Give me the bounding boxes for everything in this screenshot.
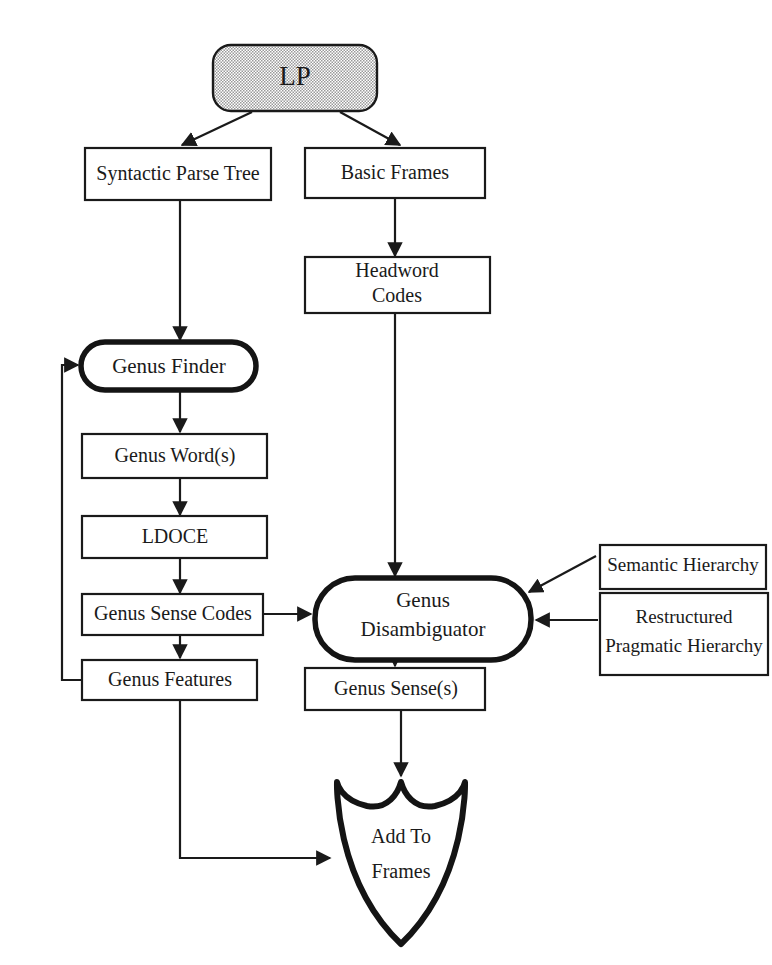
- basic-frames-label: Basic Frames: [341, 161, 450, 183]
- genus-words-label: Genus Word(s): [115, 444, 236, 467]
- edge-semantic-hierarchy-to-disambiguator: [529, 556, 596, 592]
- node-syntactic-parse-tree[interactable]: Syntactic Parse Tree: [85, 148, 271, 200]
- genus-senses-label: Genus Sense(s): [334, 677, 458, 700]
- node-genus-disambiguator[interactable]: Genus Disambiguator: [315, 578, 531, 660]
- ldoce-label: LDOCE: [142, 525, 209, 547]
- pragmatic-hierarchy-label-line1: Restructured: [635, 606, 733, 627]
- node-basic-frames[interactable]: Basic Frames: [305, 148, 485, 198]
- node-genus-words[interactable]: Genus Word(s): [82, 434, 267, 478]
- headword-codes-label-line2: Codes: [372, 284, 422, 306]
- genus-finder-label: Genus Finder: [112, 354, 226, 378]
- genus-features-label: Genus Features: [108, 668, 232, 690]
- node-genus-finder[interactable]: Genus Finder: [81, 342, 256, 390]
- diagram-canvas: LP Syntactic Parse Tree Basic Frames Hea…: [0, 0, 772, 965]
- edge-genus-features-to-add-to-frames: [180, 700, 330, 858]
- genus-disambiguator-label-line2: Disambiguator: [361, 617, 486, 641]
- add-to-frames-label-line1: Add To: [371, 825, 431, 847]
- node-headword-codes[interactable]: Headword Codes: [305, 257, 490, 313]
- pragmatic-hierarchy-label-line2: Pragmatic Hierarchy: [605, 635, 763, 656]
- node-lp[interactable]: LP: [213, 45, 377, 111]
- add-to-frames-label-line2: Frames: [372, 860, 431, 882]
- genus-sense-codes-label: Genus Sense Codes: [94, 602, 252, 624]
- node-genus-features[interactable]: Genus Features: [82, 660, 257, 700]
- edge-lp-to-basic-frames: [340, 112, 400, 145]
- node-pragmatic-hierarchy[interactable]: Restructured Pragmatic Hierarchy: [600, 593, 768, 675]
- syntactic-parse-tree-label: Syntactic Parse Tree: [96, 162, 259, 185]
- edge-layer: [62, 112, 598, 858]
- node-add-to-frames[interactable]: Add To Frames: [337, 782, 465, 944]
- pragmatic-hierarchy-shape: [600, 593, 768, 675]
- edge-genus-features-feedback-to-genus-finder: [62, 365, 82, 680]
- node-genus-sense-codes[interactable]: Genus Sense Codes: [82, 594, 263, 635]
- node-genus-senses[interactable]: Genus Sense(s): [305, 668, 485, 710]
- genus-disambiguator-label-line1: Genus: [396, 588, 450, 612]
- headword-codes-label-line1: Headword: [355, 259, 438, 281]
- node-semantic-hierarchy[interactable]: Semantic Hierarchy: [600, 545, 766, 589]
- edge-lp-to-syntactic-parse: [182, 112, 252, 145]
- lp-label: LP: [279, 61, 311, 91]
- node-ldoce[interactable]: LDOCE: [82, 516, 267, 558]
- flowchart-diagram: LP Syntactic Parse Tree Basic Frames Hea…: [0, 0, 772, 965]
- semantic-hierarchy-label: Semantic Hierarchy: [607, 554, 759, 575]
